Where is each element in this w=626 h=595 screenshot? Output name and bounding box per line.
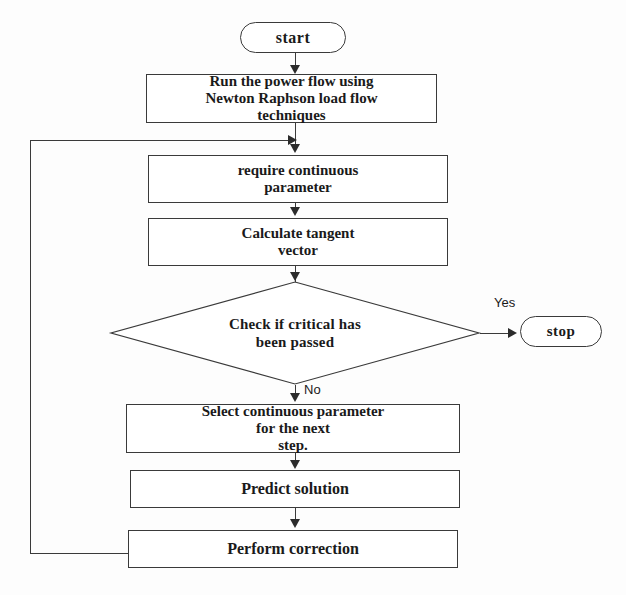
connector-power-flow-to-require-param-arrowhead <box>290 144 300 153</box>
connector-tangent-vector-to-decision-arrowhead <box>290 272 300 281</box>
node-start[interactable]: start <box>240 22 346 53</box>
connector-predict-to-correct-arrowhead <box>290 519 300 528</box>
flowchart-canvas: start Run the power flow using Newton Ra… <box>0 0 626 595</box>
feedback-loop-bottom-segment <box>30 553 128 554</box>
node-select-continuous-parameter-line-2: for the next <box>256 420 330 437</box>
node-select-continuous-parameter-line-1: Select continuous parameter <box>202 403 384 420</box>
node-check-if-critical-passed-line-1: Check if critical has <box>229 315 361 333</box>
node-stop-label: stop <box>547 323 576 340</box>
node-check-if-critical-passed[interactable]: Check if critical has been passed <box>110 281 480 385</box>
edge-label-yes: Yes <box>494 295 515 310</box>
edge-label-no: No <box>304 382 321 397</box>
node-run-power-flow-line-2: Newton Raphson load flow <box>205 90 377 107</box>
node-calculate-tangent-vector-line-2: vector <box>278 242 318 259</box>
connector-require-param-to-tangent-vector-arrowhead <box>290 207 300 216</box>
node-predict-solution-label: Predict solution <box>241 480 349 498</box>
connector-decision-yes-arrowhead <box>508 328 517 338</box>
connector-decision-no-arrowhead <box>290 393 300 402</box>
node-run-power-flow-line-1: Run the power flow using <box>210 73 374 90</box>
node-select-continuous-parameter-line-3: step. <box>278 437 308 454</box>
connector-select-param-to-predict-arrowhead <box>290 460 300 469</box>
node-start-label: start <box>276 29 310 47</box>
feedback-loop-top-segment <box>30 140 295 141</box>
feedback-loop-left-segment <box>30 140 31 554</box>
node-perform-correction-label: Perform correction <box>227 540 359 558</box>
node-require-continuous-parameter-line-1: require continuous <box>238 162 359 179</box>
node-require-continuous-parameter[interactable]: require continuous parameter <box>148 155 448 203</box>
node-calculate-tangent-vector[interactable]: Calculate tangent vector <box>148 218 448 266</box>
node-run-power-flow-line-3: techniques <box>257 107 325 124</box>
node-check-if-critical-passed-label: Check if critical has been passed <box>110 281 480 385</box>
node-require-continuous-parameter-line-2: parameter <box>264 179 331 196</box>
node-check-if-critical-passed-line-2: been passed <box>256 333 334 351</box>
node-select-continuous-parameter[interactable]: Select continuous parameter for the next… <box>126 404 460 453</box>
node-stop[interactable]: stop <box>520 316 602 347</box>
node-calculate-tangent-vector-line-1: Calculate tangent <box>242 225 355 242</box>
node-run-power-flow[interactable]: Run the power flow using Newton Raphson … <box>146 74 437 123</box>
node-predict-solution[interactable]: Predict solution <box>130 470 460 508</box>
node-perform-correction[interactable]: Perform correction <box>128 530 458 568</box>
